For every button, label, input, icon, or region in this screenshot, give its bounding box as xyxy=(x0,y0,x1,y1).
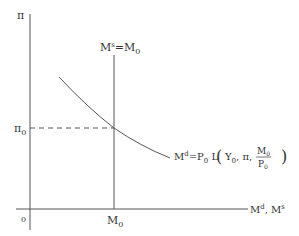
money-demand-label: Md=P0 L ( Y0, π, M0 P0 ) xyxy=(174,146,287,170)
pi0-label: π0 xyxy=(14,122,26,137)
x-axis-label: Md, Ms xyxy=(250,203,285,215)
svg-text:Md=P0 L: Md=P0 L xyxy=(174,150,218,165)
svg-text:P0: P0 xyxy=(258,159,268,170)
origin-label: 0 xyxy=(21,215,26,224)
money-market-diagram: π 0 π0 M0 Ms=M0 Md, Ms Md=P0 L ( Y0, π, … xyxy=(0,0,299,236)
money-supply-label: Ms=M0 xyxy=(100,41,140,56)
svg-text:M0: M0 xyxy=(257,146,270,157)
close-paren: ) xyxy=(281,147,287,166)
svg-text:Y0, π,: Y0, π, xyxy=(224,151,252,165)
y-axis-label: π xyxy=(17,9,24,22)
m0-label: M0 xyxy=(107,214,123,229)
open-paren: ( xyxy=(216,147,222,166)
